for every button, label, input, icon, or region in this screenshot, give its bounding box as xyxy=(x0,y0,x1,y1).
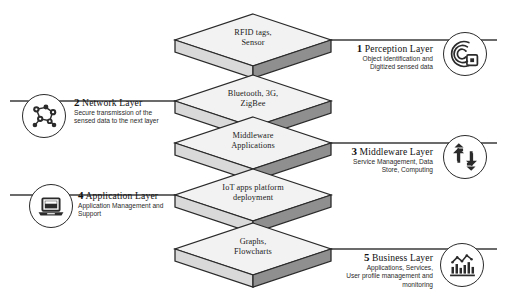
layer-desc-middleware: Service Management, Data Store, Computin… xyxy=(258,158,433,175)
layer-name-middleware: Middleware Layer xyxy=(359,146,433,157)
layer-info-middleware: 3 Middleware Layer Service Management, D… xyxy=(258,145,433,175)
layer-number-network: 2 xyxy=(74,96,80,108)
rfid-signal-icon xyxy=(443,32,487,76)
layer-number-perception: 1 xyxy=(357,42,363,54)
layer-number-middleware: 3 xyxy=(351,145,357,157)
bar-chart-icon xyxy=(440,243,484,287)
layer-number-business: 5 xyxy=(364,251,370,263)
layer-title-business: 5 Business Layer xyxy=(258,251,433,263)
layer-desc-application: Application Management and Support xyxy=(78,202,253,219)
layer-info-perception: 1 Perception Layer Object identification… xyxy=(258,42,433,72)
layer-desc-perception: Object identification and Digitized sens… xyxy=(258,55,433,72)
network-nodes-icon xyxy=(22,94,66,138)
laptop-icon xyxy=(29,184,73,228)
layer-info-business: 5 Business Layer Applications, Services,… xyxy=(258,251,433,289)
cycle-arrows-icon xyxy=(443,135,487,179)
layer-name-network: Network Layer xyxy=(82,97,142,108)
layer-desc-business: Applications, Services, User profile man… xyxy=(258,264,433,289)
layer-info-application: 4 Application Layer Application Manageme… xyxy=(78,189,253,219)
layer-name-application: Application Layer xyxy=(86,190,159,201)
layer-title-network: 2 Network Layer xyxy=(74,96,249,108)
layer-name-perception: Perception Layer xyxy=(365,43,433,54)
layer-title-perception: 1 Perception Layer xyxy=(258,42,433,54)
layer-info-network: 2 Network Layer Secure transmission of t… xyxy=(74,96,249,126)
layer-number-application: 4 xyxy=(78,189,84,201)
layer-desc-network: Secure transmission of the sensed data t… xyxy=(74,109,249,126)
layer-title-application: 4 Application Layer xyxy=(78,189,253,201)
layer-title-middleware: 3 Middleware Layer xyxy=(258,145,433,157)
layer-name-business: Business Layer xyxy=(372,252,433,263)
